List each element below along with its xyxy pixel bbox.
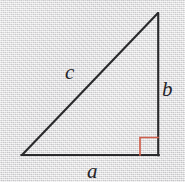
horizontal-leg-label: a	[87, 161, 98, 182]
hypotenuse-label: c	[65, 62, 74, 83]
vertical-leg-label: b	[162, 79, 173, 100]
right-angle-marker-icon	[140, 138, 158, 156]
hypotenuse-line	[22, 13, 158, 155]
right-triangle-figure: c b a	[0, 0, 185, 182]
triangle-drawing	[0, 0, 185, 182]
